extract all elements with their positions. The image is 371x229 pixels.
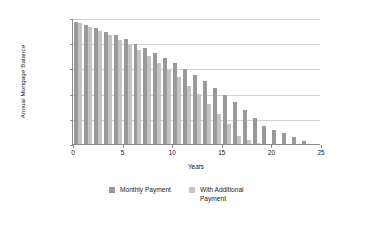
y-gridline	[73, 19, 320, 20]
x-axis-tick	[222, 145, 223, 148]
bar-with-additional-payment	[227, 124, 231, 144]
bar-with-additional-payment	[78, 23, 82, 144]
bar-with-additional-payment	[98, 31, 102, 144]
bar-with-additional-payment	[217, 114, 221, 144]
bar-with-additional-payment	[88, 27, 92, 144]
y-axis-tick	[70, 95, 73, 96]
bar-with-additional-payment	[197, 94, 201, 144]
bar-monthly-payment	[272, 130, 276, 144]
mortgage-balance-chart: Annual Mortgage Balance $0$50,000$100,00…	[0, 0, 371, 229]
x-axis-tick	[73, 145, 74, 148]
bar-with-additional-payment	[137, 50, 141, 144]
x-axis-tick	[172, 145, 173, 148]
y-axis-tick	[70, 69, 73, 70]
bar-with-additional-payment	[118, 40, 122, 144]
legend-label: Monthly Payment	[120, 186, 171, 195]
bar-with-additional-payment	[247, 140, 251, 144]
x-axis-label: 25	[309, 149, 333, 156]
x-axis-label: 5	[111, 149, 135, 156]
x-axis-tick	[123, 145, 124, 148]
bar-with-additional-payment	[177, 77, 181, 144]
bar-with-additional-payment	[157, 63, 161, 144]
bar-monthly-payment	[253, 118, 257, 144]
bar-with-additional-payment	[237, 136, 241, 144]
legend-label: With Additional Payment	[200, 186, 262, 204]
bar-monthly-payment	[243, 110, 247, 144]
bar-with-additional-payment	[187, 86, 191, 144]
x-axis-label: 20	[259, 149, 283, 156]
bar-with-additional-payment	[108, 35, 112, 144]
y-axis-tick	[70, 19, 73, 20]
legend-swatch-icon	[109, 187, 115, 193]
x-axis-tick	[271, 145, 272, 148]
bar-with-additional-payment	[167, 70, 171, 144]
legend-swatch-icon	[189, 187, 195, 193]
legend-item[interactable]: Monthly Payment	[109, 186, 171, 195]
legend-item[interactable]: With Additional Payment	[189, 186, 262, 204]
y-axis-tick	[70, 44, 73, 45]
x-axis-label: 15	[210, 149, 234, 156]
bar-with-additional-payment	[147, 56, 151, 144]
bar-with-additional-payment	[128, 45, 132, 144]
bar-with-additional-payment	[257, 143, 261, 145]
x-axis-label: 10	[160, 149, 184, 156]
bar-monthly-payment	[282, 133, 286, 144]
x-axis-label: 0	[61, 149, 85, 156]
x-axis-title: Years	[72, 163, 320, 170]
chart-legend: Monthly PaymentWith Additional Payment	[0, 186, 371, 204]
bar-monthly-payment	[302, 141, 306, 144]
bar-monthly-payment	[292, 137, 296, 144]
plot-area: $0$50,000$100,000$150,000$200,000$250,00…	[72, 19, 320, 145]
y-axis-tick	[70, 120, 73, 121]
y-axis-title: Annual Mortgage Balance	[19, 22, 26, 142]
x-axis-tick	[321, 145, 322, 148]
bar-monthly-payment	[262, 126, 266, 144]
bar-with-additional-payment	[207, 104, 211, 144]
